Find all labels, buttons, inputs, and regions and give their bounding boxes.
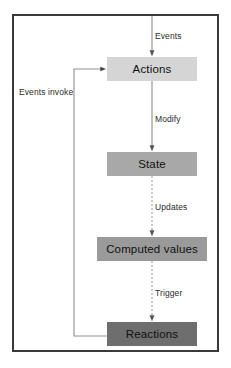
node-actions-label: Actions — [133, 63, 172, 75]
node-actions[interactable]: Actions — [107, 57, 197, 81]
node-reactions-label: Reactions — [126, 328, 179, 340]
edge-label-events: Events — [155, 31, 182, 41]
node-computed-values[interactable]: Computed values — [97, 237, 207, 261]
edge-label-events-invoke: Events invoke — [19, 87, 73, 97]
flow-diagram: Actions State Computed values Reactions … — [0, 0, 231, 368]
edge-label-modify: Modify — [155, 114, 181, 124]
edge-label-trigger: Trigger — [155, 288, 182, 298]
node-state-label: State — [138, 158, 166, 170]
node-state[interactable]: State — [107, 152, 197, 176]
node-reactions[interactable]: Reactions — [107, 322, 197, 346]
node-computed-values-label: Computed values — [106, 243, 198, 255]
edge-label-updates: Updates — [155, 202, 187, 212]
